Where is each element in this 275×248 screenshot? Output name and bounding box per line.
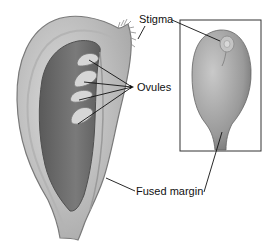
fused-margin-label: Fused margin (136, 186, 203, 197)
ovule-leader-arrowhead (130, 85, 134, 89)
inset-external-view (180, 20, 261, 151)
inset-stigma-center (224, 41, 230, 48)
stigma-leader-left (138, 26, 145, 39)
ovules-label: Ovules (137, 82, 171, 93)
stigma-label: Stigma (139, 14, 173, 25)
carpel-section (17, 16, 136, 240)
fused-margin-leader-left (106, 178, 135, 191)
carpel-diagram (0, 0, 275, 248)
